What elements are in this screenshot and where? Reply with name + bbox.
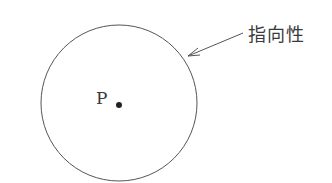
point-p-label: P: [96, 88, 107, 108]
point-p-dot: [116, 102, 122, 108]
directivity-label: 指向性: [248, 20, 305, 46]
arrow-icon: [188, 33, 243, 56]
